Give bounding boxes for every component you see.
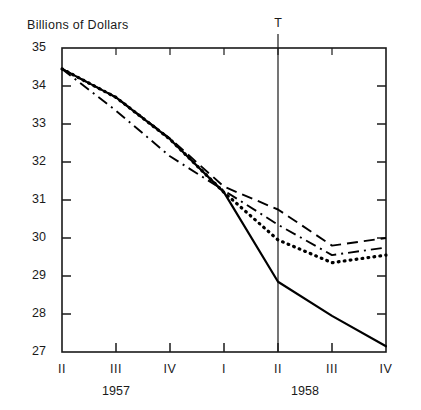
y-axis-tick-label: 33 bbox=[20, 116, 46, 130]
x-axis-group-label-1958: 1958 bbox=[270, 384, 340, 398]
x-axis-tick-label: II bbox=[258, 362, 298, 376]
data-series-group bbox=[62, 69, 386, 346]
y-axis-tick-label: 34 bbox=[20, 78, 46, 92]
series-line-solid bbox=[62, 69, 386, 346]
t-marker-label: T bbox=[268, 16, 288, 30]
series-line-dotted bbox=[62, 69, 386, 263]
y-axis-tick-label: 30 bbox=[20, 230, 46, 244]
y-axis-tick-label: 32 bbox=[20, 154, 46, 168]
y-axis-tick-label: 35 bbox=[20, 40, 46, 54]
x-axis-tick-label: III bbox=[96, 362, 136, 376]
y-axis-title: Billions of Dollars bbox=[27, 18, 129, 32]
series-line-dash-dot bbox=[62, 69, 386, 255]
x-axis-tick-label: III bbox=[312, 362, 352, 376]
chart-plot-area bbox=[0, 0, 421, 410]
chart-figure: Billions of Dollars T 353433323130292827… bbox=[0, 0, 421, 410]
x-axis-tick-label: II bbox=[42, 362, 82, 376]
x-axis-tick-label: I bbox=[204, 362, 244, 376]
y-axis-tick-label: 29 bbox=[20, 268, 46, 282]
x-axis-tick-label: IV bbox=[366, 362, 406, 376]
x-axis-group-label-1957: 1957 bbox=[81, 384, 151, 398]
y-axis-tick-label: 27 bbox=[20, 344, 46, 358]
y-axis-tick-label: 28 bbox=[20, 306, 46, 320]
y-axis-tick-label: 31 bbox=[20, 192, 46, 206]
x-axis-tick-label: IV bbox=[150, 362, 190, 376]
